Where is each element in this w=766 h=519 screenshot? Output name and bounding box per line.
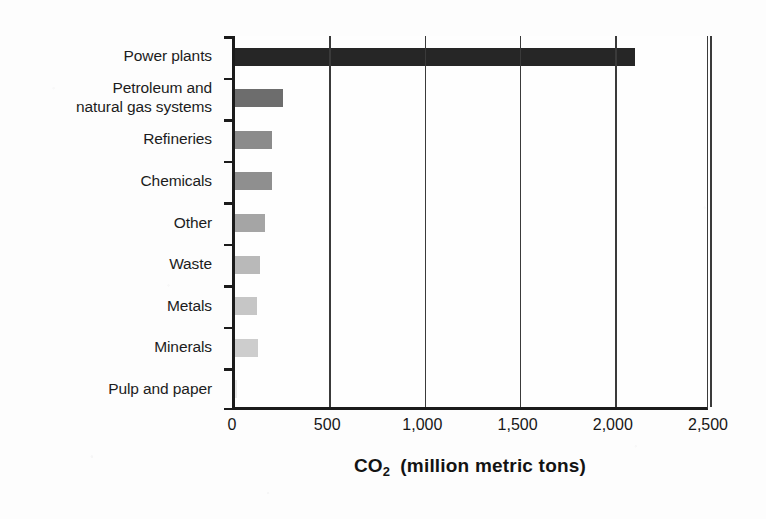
co2-emissions-bar-chart: Power plantsPetroleum and natural gas sy… xyxy=(0,0,766,519)
category-label-metals: Metals xyxy=(0,296,212,315)
bar-slot xyxy=(235,36,707,78)
bar xyxy=(235,214,265,232)
category-tick-mark xyxy=(224,78,235,81)
x-axis-tick-labels: 05001,0001,5002,0002,500 xyxy=(232,416,708,442)
category-label-petroleum-and-natural-gas-systems: Petroleum and natural gas systems xyxy=(0,78,212,116)
category-label-chemicals: Chemicals xyxy=(0,171,212,190)
bar xyxy=(235,131,272,149)
category-tick-mark xyxy=(224,327,235,330)
bar-slot xyxy=(235,202,707,244)
category-label-refineries: Refineries xyxy=(0,129,212,148)
gridline-1500 xyxy=(520,36,522,407)
bar-slot xyxy=(235,244,707,286)
x-tick-label-1500: 1,500 xyxy=(498,416,538,434)
category-tick-mark xyxy=(224,285,235,288)
category-label-waste: Waste xyxy=(0,254,212,273)
bar-slot xyxy=(235,161,707,203)
x-tick-label-2500: 2,500 xyxy=(688,416,728,434)
category-tick-mark xyxy=(224,36,235,39)
bar xyxy=(235,172,272,190)
category-tick-mark xyxy=(224,202,235,205)
plot-area xyxy=(232,36,708,410)
gridline-2500 xyxy=(710,36,712,407)
bar-slot xyxy=(235,78,707,120)
bar xyxy=(235,380,237,398)
category-tick-mark xyxy=(224,408,235,411)
axis-title-formula-subscript: 2 xyxy=(383,464,390,479)
bar xyxy=(235,89,283,107)
gridline-2000 xyxy=(615,36,617,407)
x-tick-label-500: 500 xyxy=(314,416,341,434)
category-label-minerals: Minerals xyxy=(0,337,212,356)
bar-slot xyxy=(235,327,707,369)
x-tick-label-1000: 1,000 xyxy=(402,416,442,434)
x-axis-title: CO2(million metric tons) xyxy=(232,455,708,477)
category-label-pulp-and-paper: Pulp and paper xyxy=(0,379,212,398)
bars-layer xyxy=(235,36,707,407)
axis-title-formula: CO2 xyxy=(354,455,390,476)
bar xyxy=(235,256,260,274)
category-axis-labels: Power plantsPetroleum and natural gas sy… xyxy=(0,36,222,410)
gridline-1000 xyxy=(425,36,427,407)
category-tick-mark xyxy=(224,244,235,247)
category-tick-mark xyxy=(224,161,235,164)
category-label-power-plants: Power plants xyxy=(0,46,212,65)
bar xyxy=(235,48,635,66)
bar-slot xyxy=(235,285,707,327)
category-label-other: Other xyxy=(0,213,212,232)
axis-title-units: (million metric tons) xyxy=(400,455,586,476)
x-tick-label-2000: 2,000 xyxy=(593,416,633,434)
axis-title-formula-main: CO xyxy=(354,455,383,476)
bar xyxy=(235,297,257,315)
category-tick-mark xyxy=(224,119,235,122)
bar-slot xyxy=(235,368,707,410)
gridline-500 xyxy=(329,36,331,407)
category-tick-mark xyxy=(224,368,235,371)
bar xyxy=(235,339,258,357)
x-tick-label-0: 0 xyxy=(228,416,237,434)
bar-slot xyxy=(235,119,707,161)
